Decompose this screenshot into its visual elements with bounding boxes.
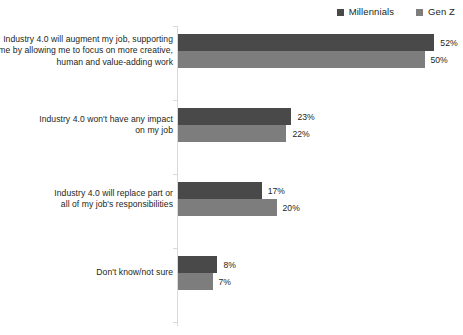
category-label: Industry 4.0 will augment my job, suppor…	[0, 34, 173, 68]
bar-value-label: 52%	[440, 38, 457, 48]
bar-gen-z[interactable]	[178, 199, 277, 216]
axis-tick	[173, 248, 177, 249]
bar-millennials[interactable]	[178, 182, 262, 199]
bar-value-label: 22%	[292, 129, 309, 139]
legend-label: Millennials	[349, 7, 394, 17]
legend-item-gen-z[interactable]: Gen Z	[416, 7, 455, 17]
bar-value-label: 17%	[268, 186, 285, 196]
axis-tick	[173, 174, 177, 175]
category-label-line: on my job	[0, 125, 173, 136]
plot-area: Industry 4.0 will augment my job, suppor…	[0, 22, 463, 335]
bar-group: Don't know/not sure8%7%	[0, 256, 463, 290]
axis-tick	[173, 26, 177, 27]
bar-value-label: 20%	[283, 203, 300, 213]
category-label-line: all of my job's responsibilities	[0, 199, 173, 210]
bar-gen-z[interactable]	[178, 51, 425, 68]
legend-label: Gen Z	[428, 7, 455, 17]
bar-value-label: 8%	[223, 260, 235, 270]
axis-tick	[173, 322, 177, 323]
bar-value-label: 7%	[219, 277, 231, 287]
category-label: Industry 4.0 won't have any impacton my …	[0, 114, 173, 136]
chart-legend: Millennials Gen Z	[0, 4, 463, 20]
bar-millennials[interactable]	[178, 34, 434, 51]
bar-value-label: 50%	[431, 55, 448, 65]
category-label-line: Industry 4.0 will augment my job, suppor…	[0, 34, 173, 45]
square-swatch-icon	[337, 9, 344, 16]
category-label-line: Industry 4.0 won't have any impact	[0, 114, 173, 125]
category-label: Don't know/not sure	[0, 267, 173, 278]
bar-group: Industry 4.0 won't have any impacton my …	[0, 108, 463, 142]
bar-group: Industry 4.0 will replace part orall of …	[0, 182, 463, 216]
category-label-line: Don't know/not sure	[0, 267, 173, 278]
axis-tick	[173, 100, 177, 101]
bar-millennials[interactable]	[178, 108, 291, 125]
bar-group: Industry 4.0 will augment my job, suppor…	[0, 34, 463, 68]
bar-gen-z[interactable]	[178, 273, 213, 290]
bar-millennials[interactable]	[178, 256, 217, 273]
legend-item-millennials[interactable]: Millennials	[337, 7, 394, 17]
category-label: Industry 4.0 will replace part orall of …	[0, 188, 173, 210]
category-label-line: me by allowing me to focus on more creat…	[0, 45, 173, 56]
square-swatch-icon	[416, 9, 423, 16]
horizontal-bar-chart: Millennials Gen Z Industry 4.0 will augm…	[0, 0, 463, 335]
category-label-line: human and value-adding work	[0, 57, 173, 68]
category-label-line: Industry 4.0 will replace part or	[0, 188, 173, 199]
bar-gen-z[interactable]	[178, 125, 286, 142]
bar-value-label: 23%	[297, 112, 314, 122]
